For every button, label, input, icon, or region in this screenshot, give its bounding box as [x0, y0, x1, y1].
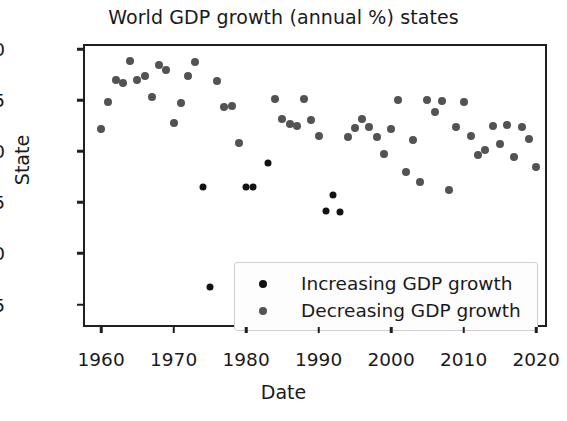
- legend-marker-decreasing-icon: [259, 307, 267, 315]
- y-tick-label: 0.5: [0, 192, 5, 213]
- legend-item-decreasing: Decreasing GDP growth: [245, 297, 527, 324]
- legend-label-increasing: Increasing GDP growth: [301, 273, 512, 294]
- x-tick-mark: [245, 327, 248, 333]
- chart-title: World GDP growth (annual %) states: [0, 6, 567, 28]
- y-tick-mark: [77, 150, 83, 153]
- x-tick-label: 1960: [78, 349, 125, 370]
- x-tick-label: 2000: [368, 349, 415, 370]
- y-tick-mark: [77, 99, 83, 102]
- y-axis-label: State: [11, 135, 33, 185]
- x-tick-label: 1990: [295, 349, 342, 370]
- x-tick-label: 2020: [513, 349, 560, 370]
- legend-item-increasing: Increasing GDP growth: [245, 270, 527, 297]
- y-tick-label: 2.0: [0, 39, 5, 60]
- x-tick-label: 1970: [150, 349, 197, 370]
- x-tick-mark: [100, 327, 103, 333]
- x-tick-mark: [172, 327, 175, 333]
- y-tick-label: 1.5: [0, 90, 5, 111]
- x-tick-mark: [535, 327, 538, 333]
- scatter-plot-figure: World GDP growth (annual %) states −0.50…: [0, 0, 567, 421]
- y-tick-mark: [77, 48, 83, 51]
- x-tick-mark: [317, 327, 320, 333]
- y-tick-label: −0.5: [0, 294, 5, 315]
- legend-label-decreasing: Decreasing GDP growth: [301, 300, 521, 321]
- x-tick-label: 2010: [440, 349, 487, 370]
- y-tick-mark: [77, 303, 83, 306]
- y-tick-mark: [77, 201, 83, 204]
- x-tick-label: 1980: [223, 349, 270, 370]
- chart-legend: Increasing GDP growth Decreasing GDP gro…: [234, 262, 538, 331]
- x-tick-mark: [462, 327, 465, 333]
- y-tick-label: 1.0: [0, 141, 5, 162]
- y-axis: −0.50.00.51.01.52.0: [0, 0, 83, 421]
- y-tick-label: 0.0: [0, 243, 5, 264]
- x-tick-mark: [390, 327, 393, 333]
- x-axis-label: Date: [0, 381, 567, 403]
- y-tick-mark: [77, 252, 83, 255]
- legend-marker-increasing-icon: [259, 280, 267, 288]
